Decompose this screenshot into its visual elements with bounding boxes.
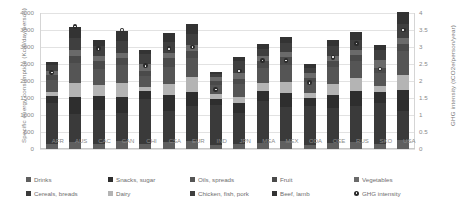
- bar-segment: [116, 58, 128, 65]
- legend-label: Dairy: [116, 190, 130, 197]
- bar-segment: [280, 82, 292, 92]
- bar-segment: [397, 90, 409, 110]
- ghg-intensity-marker: [354, 41, 359, 46]
- legend-square-icon: [190, 177, 195, 182]
- y-tick-label-left: 4000: [8, 10, 34, 16]
- y-tick-label-left: 500: [8, 129, 34, 135]
- plot-area: [40, 13, 415, 149]
- legend-square-icon: [26, 177, 31, 182]
- legend-label: Cereals, breads: [34, 190, 78, 197]
- legend-item: Beef, lamb: [272, 190, 354, 197]
- bar-segment: [69, 56, 81, 63]
- legend-label: Oils, spreads: [198, 176, 234, 183]
- y-axis-title-right: GHG intensity (tCO2e/person/year): [449, 1, 456, 151]
- bar-segment: [69, 97, 81, 113]
- bar-segment: [69, 83, 81, 98]
- bar-segment: [397, 75, 409, 91]
- bar-segment: [350, 91, 362, 106]
- bar-segment: [46, 144, 58, 149]
- stacked-bar: [304, 64, 316, 149]
- y-tick-label-right: 3: [419, 44, 445, 50]
- bar-segment: [374, 50, 386, 60]
- bar-segment: [116, 31, 128, 41]
- y-tick-label-right: 3.5: [419, 27, 445, 33]
- y-tick-label-left: 1000: [8, 112, 34, 118]
- legend-item: GHG intensity: [354, 190, 436, 197]
- bar-segment: [93, 61, 105, 69]
- stacked-bar: [93, 40, 105, 149]
- legend-square-icon: [108, 191, 113, 196]
- bar-segment: [93, 96, 105, 110]
- bar-segment: [210, 145, 222, 149]
- bar-segment: [327, 67, 339, 83]
- stacked-bar: [69, 27, 81, 149]
- bar-segment: [46, 80, 58, 91]
- bar-segment: [233, 73, 245, 80]
- bar-segment: [139, 76, 151, 87]
- bar-segment: [397, 111, 409, 141]
- stacked-bar: [397, 12, 409, 149]
- bar-segment: [397, 12, 409, 23]
- y-tick-label-left: 1500: [8, 95, 34, 101]
- ghg-intensity-marker: [237, 69, 242, 74]
- bar-segment: [116, 83, 128, 97]
- bar-segment: [350, 78, 362, 91]
- bar-segment: [186, 106, 198, 141]
- bar-segment: [374, 73, 386, 87]
- legend-item: Oils, spreads: [190, 176, 272, 183]
- bar-segment: [163, 84, 175, 95]
- legend-item: Chicken, fish, pork: [190, 190, 272, 197]
- bar-segment: [374, 92, 386, 103]
- y-tick-label-right: 2.5: [419, 61, 445, 67]
- ghg-intensity-marker: [401, 28, 406, 33]
- legend-label: GHG intensity: [362, 190, 401, 197]
- y-tick-label-right: 0: [419, 146, 445, 152]
- y-tick-label-left: 0: [8, 146, 34, 152]
- chart-legend: DrinksCereals, breadsSnacks, sugarDairyO…: [26, 172, 436, 202]
- axis-line-right: [414, 13, 415, 149]
- gridline: [40, 13, 415, 14]
- bar-segment: [163, 67, 175, 84]
- y-tick-label-left: 2500: [8, 61, 34, 67]
- bar-segment: [233, 84, 245, 97]
- bar-segment: [257, 68, 269, 83]
- bar-segment: [280, 43, 292, 53]
- bar-segment: [186, 58, 198, 77]
- bar-segment: [350, 61, 362, 79]
- y-tick-label-right: 1: [419, 112, 445, 118]
- axis-line-left: [40, 13, 41, 149]
- bar-segment: [163, 95, 175, 111]
- y-tick-label-right: 4: [419, 10, 445, 16]
- bar-segment: [69, 38, 81, 50]
- legend-label: Chicken, fish, pork: [198, 190, 249, 197]
- y-tick-label-left: 2000: [8, 78, 34, 84]
- bar-segment: [186, 51, 198, 58]
- legend-item: Snacks, sugar: [108, 176, 190, 183]
- bar-segment: [186, 77, 198, 92]
- ghg-intensity-marker: [190, 45, 195, 50]
- bar-segment: [397, 51, 409, 74]
- bar-segment: [280, 107, 292, 141]
- stacked-bar: [350, 32, 362, 149]
- y-tick-label-left: 3000: [8, 44, 34, 50]
- bar-segment: [163, 58, 175, 66]
- bar-segment: [116, 97, 128, 113]
- stacked-bar-chart: Specific energy consumption (Kcal/day/pe…: [0, 0, 457, 209]
- legend-square-icon: [272, 177, 277, 182]
- bar-segment: [280, 65, 292, 83]
- bar-segment: [327, 95, 339, 108]
- bar-segment: [116, 65, 128, 84]
- bar-segment: [69, 63, 81, 83]
- legend-item: Drinks: [26, 176, 108, 183]
- bar-segment: [350, 106, 362, 142]
- bar-segment: [257, 143, 269, 149]
- stacked-bar: [186, 24, 198, 149]
- legend-square-icon: [108, 177, 113, 182]
- bar-segment: [397, 44, 409, 51]
- bar-segment: [257, 83, 269, 91]
- bar-segment: [116, 41, 128, 52]
- bar-segment: [186, 34, 198, 45]
- ghg-intensity-marker: [260, 58, 265, 63]
- bar-segment: [69, 27, 81, 38]
- bar-segment: [93, 69, 105, 85]
